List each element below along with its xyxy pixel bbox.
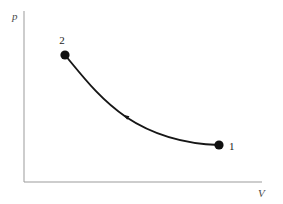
figure-background (0, 0, 283, 204)
pv-diagram-figure: p V 2 1 (0, 0, 283, 204)
state-label-2: 2 (59, 34, 65, 46)
state-point-2 (60, 50, 69, 59)
pv-diagram-canvas: p V 2 1 (0, 0, 283, 204)
state-point-1 (214, 140, 223, 149)
y-axis-label: p (11, 10, 18, 22)
state-label-1: 1 (229, 140, 235, 152)
